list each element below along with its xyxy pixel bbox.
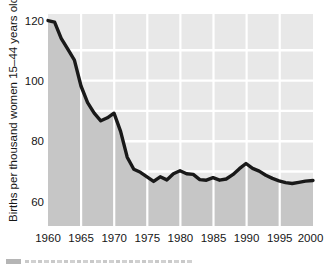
x-tick-label-1995: 1995 bbox=[267, 232, 293, 244]
y-axis-title: Births per thousand women 15–44 years ol… bbox=[7, 0, 19, 222]
x-tick-label-2000: 2000 bbox=[298, 232, 324, 244]
y-tick-label-120: 120 bbox=[25, 15, 44, 27]
x-tick-label-1965: 1965 bbox=[68, 232, 94, 244]
chart-figure: 120 100 80 60 Births per thousand women … bbox=[0, 0, 325, 267]
y-tick-label-100: 100 bbox=[25, 75, 44, 87]
y-tick-label-60: 60 bbox=[31, 196, 44, 208]
x-tick-label-1975: 1975 bbox=[135, 232, 161, 244]
y-tick-label-80: 80 bbox=[31, 135, 44, 147]
x-tick-label-1980: 1980 bbox=[168, 232, 194, 244]
x-tick-label-1990: 1990 bbox=[234, 232, 260, 244]
birth-rate-area-chart: 120 100 80 60 Births per thousand women … bbox=[0, 0, 325, 267]
x-tick-label-1960: 1960 bbox=[35, 232, 61, 244]
x-tick-label-1970: 1970 bbox=[101, 232, 127, 244]
x-tick-label-1985: 1985 bbox=[201, 232, 227, 244]
